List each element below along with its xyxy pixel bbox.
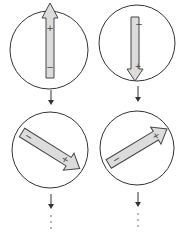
right-top-panel: − + — [99, 5, 175, 81]
left-top-panel: + − — [10, 3, 88, 89]
left-bottom-panel: − + — [12, 112, 88, 188]
down-arrow-icon — [135, 86, 141, 102]
minus-sign: − — [135, 19, 143, 29]
down-arrow-icon — [135, 192, 141, 207]
continuation-dots — [50, 215, 52, 229]
down-arrow-icon — [48, 90, 54, 105]
down-arrow-icon — [48, 194, 54, 209]
minus-sign: − — [46, 62, 54, 72]
right-bottom-panel: − + — [100, 111, 174, 185]
continuation-dots — [137, 213, 139, 227]
dipole-rotation-diagram: + − − + − + — [0, 0, 183, 235]
plus-sign: + — [46, 23, 54, 33]
plus-sign: + — [135, 62, 142, 71]
